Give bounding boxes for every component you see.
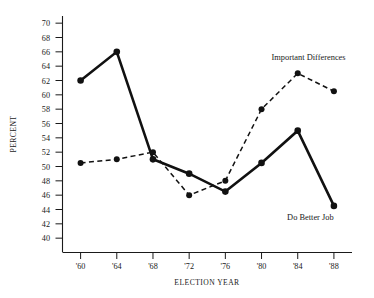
y-tick-label: 50 bbox=[42, 163, 50, 172]
y-tick-label: 46 bbox=[42, 191, 50, 200]
x-tick-label: '88 bbox=[329, 262, 339, 271]
data-point-marker bbox=[114, 156, 120, 162]
chart-container: 40424446485052545658606264666870 PERCENT… bbox=[0, 0, 374, 298]
x-axis-title: ELECTION YEAR bbox=[174, 278, 240, 287]
y-tick-label: 68 bbox=[42, 34, 50, 43]
series-annotation-label: Do Better Job bbox=[287, 213, 334, 222]
data-point-marker bbox=[331, 88, 337, 94]
y-tick-label: 40 bbox=[42, 234, 50, 243]
x-tick-label: '76 bbox=[221, 262, 231, 271]
data-point-marker bbox=[258, 160, 265, 167]
data-point-marker bbox=[259, 106, 265, 112]
y-tick-label: 58 bbox=[42, 105, 50, 114]
y-tick-label: 44 bbox=[42, 206, 50, 215]
y-tick-label: 62 bbox=[42, 77, 50, 86]
x-tick-label: '72 bbox=[184, 262, 194, 271]
y-tick-label: 64 bbox=[42, 62, 50, 71]
data-point-marker bbox=[78, 160, 84, 166]
x-tick-label: '84 bbox=[293, 262, 303, 271]
data-point-marker bbox=[295, 70, 301, 76]
data-point-marker bbox=[222, 188, 229, 195]
data-point-marker bbox=[186, 192, 192, 198]
y-tick-label: 66 bbox=[42, 48, 50, 57]
data-point-marker bbox=[150, 156, 157, 163]
data-point-marker bbox=[113, 49, 120, 56]
x-tick-label: '64 bbox=[112, 262, 122, 271]
y-axis-ticks: 40424446485052545658606264666870 bbox=[42, 19, 63, 243]
data-point-marker bbox=[331, 203, 338, 210]
y-tick-label: 70 bbox=[42, 19, 50, 28]
x-tick-label: '60 bbox=[76, 262, 86, 271]
data-point-marker bbox=[222, 178, 228, 184]
y-tick-label: 42 bbox=[42, 220, 50, 229]
y-tick-label: 52 bbox=[42, 148, 50, 157]
line-chart: 40424446485052545658606264666870 PERCENT… bbox=[0, 0, 374, 298]
x-axis-ticks: '60'64'68'72'76'80'84'88 bbox=[76, 253, 339, 272]
x-axis-group: '60'64'68'72'76'80'84'88 ELECTION YEAR bbox=[63, 253, 353, 288]
y-tick-label: 48 bbox=[42, 177, 50, 186]
x-tick-label: '68 bbox=[148, 262, 158, 271]
y-tick-label: 60 bbox=[42, 91, 50, 100]
y-tick-label: 54 bbox=[42, 134, 50, 143]
y-axis-group: 40424446485052545658606264666870 PERCENT bbox=[9, 16, 63, 252]
y-tick-label: 56 bbox=[42, 120, 50, 129]
x-tick-label: '80 bbox=[257, 262, 267, 271]
data-point-marker bbox=[150, 149, 156, 155]
y-axis-title: PERCENT bbox=[9, 116, 18, 153]
series-annotation-label: Important Differences bbox=[272, 53, 346, 62]
series-layer bbox=[77, 49, 337, 210]
data-point-marker bbox=[77, 77, 84, 84]
data-point-marker bbox=[294, 127, 301, 134]
data-point-marker bbox=[186, 170, 193, 177]
series-path-dashed bbox=[81, 73, 334, 195]
